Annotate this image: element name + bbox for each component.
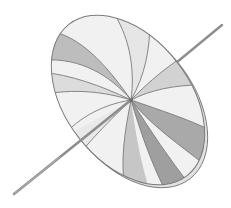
disc-top-drawing: [0, 0, 231, 208]
hub-icon: [129, 98, 133, 102]
illustration: [0, 0, 231, 208]
stick-tip-highlight: [14, 157, 60, 194]
